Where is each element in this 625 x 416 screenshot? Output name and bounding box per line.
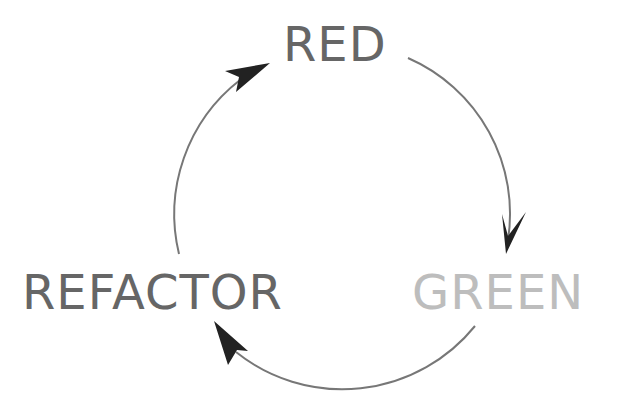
arrowhead-down-icon	[502, 212, 526, 254]
node-refactor-label: REFACTOR	[22, 268, 283, 316]
arc-red-to-green	[408, 58, 510, 240]
node-green-label: GREEN	[412, 268, 584, 316]
node-red-label: RED	[283, 20, 387, 68]
arc-green-to-refactor	[236, 326, 475, 389]
arc-refactor-to-red	[174, 80, 240, 254]
